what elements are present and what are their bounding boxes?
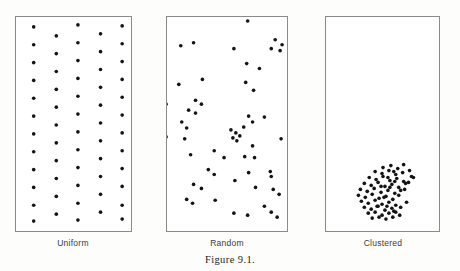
data-point [366, 201, 370, 205]
data-point [398, 213, 402, 217]
data-point [120, 60, 124, 64]
data-point [399, 189, 403, 193]
data-point [403, 188, 407, 192]
data-point [365, 190, 369, 194]
data-point [187, 108, 191, 112]
panel-caption-clustered: Clustered [323, 238, 443, 248]
data-point [278, 49, 282, 53]
data-point [387, 200, 391, 204]
data-point [269, 210, 273, 214]
data-point [76, 77, 80, 81]
data-point [32, 203, 36, 207]
data-point [32, 61, 36, 65]
data-point [369, 207, 373, 211]
data-point [393, 192, 397, 196]
data-point [372, 187, 376, 191]
data-point [32, 186, 36, 190]
data-point [244, 81, 248, 85]
data-point [99, 157, 103, 161]
data-point [54, 212, 58, 216]
data-point [120, 95, 124, 99]
data-point [32, 25, 36, 29]
data-point [251, 120, 255, 124]
data-point [231, 136, 235, 140]
data-point [120, 131, 124, 135]
data-point [76, 23, 80, 27]
data-point [408, 169, 412, 173]
data-point [363, 205, 367, 209]
data-point [252, 88, 256, 92]
data-point [183, 137, 187, 141]
data-point [373, 198, 377, 202]
data-point [370, 193, 374, 197]
data-point [233, 179, 237, 183]
data-point [370, 216, 374, 220]
data-point [99, 86, 103, 90]
data-point [54, 141, 58, 145]
data-point [120, 24, 124, 28]
data-point [232, 47, 236, 51]
data-point [380, 202, 384, 206]
figure-number-label: Figure 9.1. [0, 254, 460, 265]
data-point [222, 156, 226, 160]
data-point [76, 166, 80, 170]
data-point [99, 68, 103, 72]
data-point [212, 149, 216, 153]
panel-caption-random: Random [167, 238, 287, 248]
data-point [269, 47, 273, 51]
data-point [394, 203, 398, 207]
data-point [247, 171, 251, 175]
data-point [379, 185, 383, 189]
data-point [366, 211, 370, 215]
data-point [399, 205, 403, 209]
data-point [189, 153, 193, 157]
data-point [238, 134, 242, 138]
data-point [363, 182, 367, 186]
data-point [200, 102, 204, 106]
data-point [273, 38, 277, 42]
data-point [377, 215, 381, 219]
data-point [32, 150, 36, 154]
data-point [99, 103, 103, 107]
data-point [192, 183, 196, 187]
data-point [388, 186, 392, 190]
data-point [405, 200, 409, 204]
data-point [375, 204, 379, 208]
data-point [234, 131, 238, 135]
data-point [185, 126, 189, 130]
data-point [99, 210, 103, 214]
data-point [254, 186, 258, 190]
data-point [76, 59, 80, 63]
data-point [373, 210, 377, 214]
data-point [200, 187, 204, 191]
data-point [251, 144, 255, 148]
data-point [120, 42, 124, 46]
data-point [167, 135, 168, 139]
data-point [386, 176, 390, 180]
data-point [271, 188, 275, 192]
data-point [54, 159, 58, 163]
data-point [99, 175, 103, 179]
data-point [382, 195, 386, 199]
data-point [120, 167, 124, 171]
data-point [99, 32, 103, 36]
data-point [213, 198, 217, 202]
data-point [253, 156, 257, 160]
data-point [32, 43, 36, 47]
data-point [76, 218, 80, 222]
data-point [32, 79, 36, 83]
data-point [383, 185, 387, 189]
data-point [376, 181, 380, 185]
data-point [369, 184, 373, 188]
data-point [384, 217, 388, 221]
data-point [383, 208, 387, 212]
data-point [401, 171, 405, 175]
scatter-plot-uniform [16, 17, 131, 231]
data-point [385, 204, 389, 208]
data-point [407, 181, 411, 185]
data-point [392, 209, 396, 213]
data-point [269, 175, 273, 179]
data-point [232, 211, 236, 215]
data-point [402, 163, 406, 167]
data-point [387, 211, 391, 215]
